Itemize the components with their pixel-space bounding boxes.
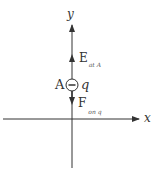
field-label: Eat A bbox=[79, 52, 101, 64]
field-symbol: E bbox=[79, 51, 88, 65]
field-subscript: at A bbox=[89, 61, 101, 68]
charge-label: q bbox=[81, 78, 89, 91]
force-label: Fon q bbox=[78, 97, 102, 109]
x-axis-label: x bbox=[144, 112, 151, 124]
field-arrowhead bbox=[69, 54, 75, 62]
diagram-canvas bbox=[0, 0, 160, 177]
force-subscript: on q bbox=[88, 108, 101, 115]
point-label: A bbox=[55, 78, 64, 91]
force-symbol: F bbox=[78, 96, 86, 110]
y-axis-label: y bbox=[67, 8, 74, 20]
